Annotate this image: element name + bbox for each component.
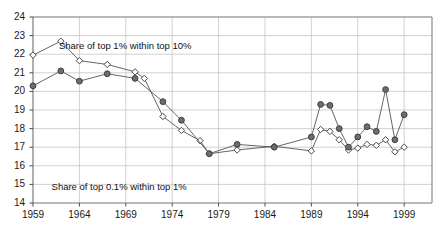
data-point [336,126,342,132]
data-point [132,75,138,81]
data-point [346,144,352,150]
y-tick-label: 17 [3,142,25,152]
line-chart-plot [0,0,441,235]
data-point [383,87,389,93]
y-tick-label: 21 [3,68,25,78]
x-tick-label: 1959 [13,210,53,220]
series-annotation: Share of top 1% within top 10% [59,40,192,51]
data-point [179,117,185,123]
data-point [355,145,361,151]
y-tick-label: 24 [3,12,25,22]
data-point [104,71,110,77]
y-tick-label: 14 [3,198,25,208]
x-tick-label: 1979 [199,210,239,220]
y-tick-label: 20 [3,86,25,96]
x-tick-label: 1969 [106,210,146,220]
data-point [30,52,36,58]
data-point [234,142,240,148]
data-point [355,134,361,140]
data-point [392,137,398,143]
data-point [308,148,314,154]
chart-container: 2423222120191817161514 19591964196919741… [0,0,441,235]
series-annotation: Share of top 0.1% within top 1% [52,181,187,192]
data-point [271,144,277,150]
y-tick-label: 19 [3,105,25,115]
x-tick-label: 1989 [291,210,331,220]
y-tick-label: 22 [3,49,25,59]
data-point [132,69,138,75]
data-point [76,78,82,84]
data-point [401,144,407,150]
y-tick-label: 15 [3,179,25,189]
data-point [141,75,147,81]
x-tick-label: 1984 [245,210,285,220]
x-tick-label: 1974 [152,210,192,220]
data-point [58,68,64,74]
data-point [373,142,379,148]
data-point [308,134,314,140]
data-point [373,128,379,134]
data-point [364,124,370,130]
x-tick-label: 1994 [338,210,378,220]
data-point [318,102,324,108]
data-point [104,61,110,67]
data-point [30,83,36,89]
data-point [364,141,370,147]
data-point [327,102,333,108]
data-point [160,99,166,105]
y-tick-label: 16 [3,161,25,171]
data-point [206,151,212,157]
x-tick-label: 1964 [59,210,99,220]
y-tick-label: 23 [3,31,25,41]
x-tick-label: 1999 [384,210,424,220]
data-point [401,112,407,118]
data-point [317,126,323,132]
y-tick-label: 18 [3,124,25,134]
